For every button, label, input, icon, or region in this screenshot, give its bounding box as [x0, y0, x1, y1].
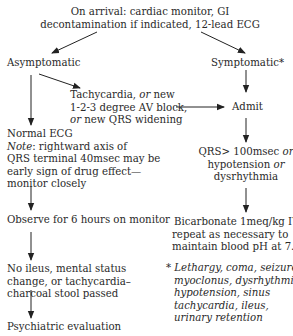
node-symptom-footnote: * Lethargy, coma, seizures, myoclonus, d…	[166, 262, 293, 325]
node-psychiatric-evaluation: Psychiatric evaluation	[7, 321, 121, 334]
arrow-asymptomatic-to-tachy	[39, 74, 80, 88]
node-tachycardia: Tachycardia, or new 1-2-3 degree AV bloc…	[70, 89, 175, 127]
node-asymptomatic: Asymptomatic	[7, 57, 81, 70]
node-normal-ecg: Normal ECG Note: rightward axis of QRS t…	[7, 128, 160, 191]
node-qrs-criteria: QRS> 100msec or hypotension or dysrhythm…	[196, 146, 293, 184]
arrival-line-1: On arrival: cardiac monitor, GI	[40, 6, 260, 19]
node-no-ileus: No ileus, mental status change, or tachy…	[7, 263, 131, 301]
node-admit: Admit	[232, 101, 263, 114]
node-symptomatic: Symptomatic*	[211, 57, 284, 70]
node-bicarbonate: Bicarbonate 1meq/kg IV, repeat as necess…	[172, 216, 293, 254]
arrival-line-2: decontamination if indicated, 12-lead EC…	[40, 19, 260, 32]
arrow-arrival-to-asymptomatic	[52, 32, 97, 53]
node-on-arrival: On arrival: cardiac monitor, GI decontam…	[40, 6, 260, 31]
node-observe: Observe for 6 hours on monitor	[7, 214, 170, 227]
arrow-arrival-to-symptomatic	[201, 32, 245, 53]
